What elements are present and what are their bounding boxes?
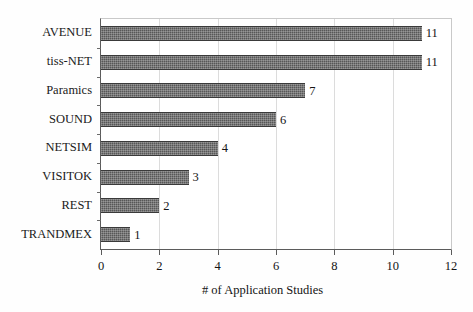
y-axis-tick bbox=[97, 134, 101, 135]
x-axis-title: # of Application Studies bbox=[0, 283, 473, 298]
bar-row: 11 bbox=[101, 48, 451, 77]
category-label: NETSIM bbox=[0, 139, 92, 155]
y-axis-tick bbox=[97, 220, 101, 221]
bar-row: 4 bbox=[101, 134, 451, 163]
category-label: REST bbox=[0, 197, 92, 213]
bar bbox=[101, 141, 218, 156]
x-axis-tick bbox=[218, 250, 219, 255]
x-axis-tick bbox=[276, 250, 277, 255]
x-axis-tick-label: 10 bbox=[373, 259, 413, 274]
category-label: SOUND bbox=[0, 111, 92, 127]
bar bbox=[101, 227, 130, 242]
bar bbox=[101, 170, 189, 185]
category-label: TRANDMEX bbox=[0, 226, 92, 242]
bar-value-label: 7 bbox=[309, 81, 315, 101]
bar bbox=[101, 112, 276, 127]
x-axis-tick bbox=[451, 250, 452, 255]
bar-value-label: 11 bbox=[426, 52, 438, 72]
bar-value-label: 3 bbox=[193, 167, 199, 187]
x-axis-tick-label: 12 bbox=[431, 259, 471, 274]
x-axis-tick bbox=[393, 250, 394, 255]
bar-chart: 1111764321 024681012 AVENUEtiss-NETParam… bbox=[0, 0, 473, 312]
y-axis-tick bbox=[97, 105, 101, 106]
bar-value-label: 4 bbox=[222, 138, 228, 158]
bar-row: 2 bbox=[101, 192, 451, 221]
bar-value-label: 1 bbox=[134, 225, 140, 245]
x-axis-tick-label: 2 bbox=[139, 259, 179, 274]
y-axis-tick bbox=[97, 192, 101, 193]
bar-value-label: 6 bbox=[280, 110, 286, 130]
plot-area: 1111764321 024681012 bbox=[100, 18, 452, 250]
category-label: Paramics bbox=[0, 82, 92, 98]
bar-row: 3 bbox=[101, 163, 451, 192]
bar bbox=[101, 26, 422, 41]
bar-row: 7 bbox=[101, 77, 451, 106]
y-axis-tick bbox=[97, 163, 101, 164]
bar-row: 1 bbox=[101, 220, 451, 249]
bar-value-label: 2 bbox=[163, 196, 169, 216]
bar-row: 6 bbox=[101, 105, 451, 134]
x-axis-tick-label: 8 bbox=[314, 259, 354, 274]
x-axis-tick-label: 6 bbox=[256, 259, 296, 274]
y-axis-tick bbox=[97, 48, 101, 49]
category-label: VISITOK bbox=[0, 168, 92, 184]
x-axis-tick bbox=[334, 250, 335, 255]
bar bbox=[101, 198, 159, 213]
bar bbox=[101, 55, 422, 70]
x-axis-tick-label: 4 bbox=[198, 259, 238, 274]
bar-row: 11 bbox=[101, 19, 451, 48]
x-axis-tick bbox=[159, 250, 160, 255]
bar bbox=[101, 83, 305, 98]
category-label: AVENUE bbox=[0, 24, 92, 40]
y-axis-tick bbox=[97, 77, 101, 78]
x-axis-tick-label: 0 bbox=[81, 259, 121, 274]
x-axis-tick bbox=[101, 250, 102, 255]
category-label: tiss-NET bbox=[0, 53, 92, 69]
bar-value-label: 11 bbox=[426, 23, 438, 43]
